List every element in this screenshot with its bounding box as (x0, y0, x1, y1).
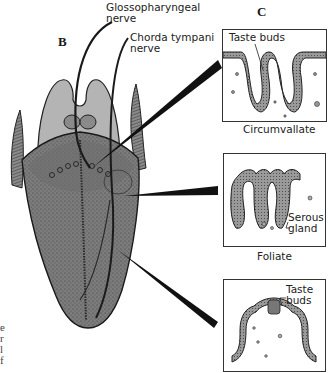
glossopharyngeal-label: Glossopharyngeal nerve (106, 2, 200, 24)
glossopharyngeal-line2: nerve (106, 13, 200, 24)
fungiform-panel: Taste buds (223, 279, 326, 372)
serous-gland-label: Serous gland (288, 212, 324, 234)
circumvallate-taste-buds-label: Taste buds (229, 32, 285, 43)
foliate-caption: Foliate (257, 251, 292, 262)
circumvallate-caption: Circumvallate (243, 124, 316, 135)
fungiform-taste-buds-label: Taste buds (286, 284, 313, 306)
chorda-tympani-line2: nerve (130, 43, 214, 54)
panel-b-label: B (58, 34, 67, 50)
panel-c-label: C (257, 4, 266, 20)
foliate-panel: Serous gland (223, 153, 326, 247)
fungiform-taste-buds-line2: buds (286, 295, 313, 306)
pointer-fungiform (118, 250, 218, 328)
serous-gland-line2: gland (288, 223, 324, 234)
chorda-tympani-label: Chorda tympani nerve (130, 32, 214, 54)
edge-fragment: f (0, 355, 5, 366)
left-edge-fragments: e r l f (0, 322, 5, 366)
circumvallate-panel: Taste buds (222, 29, 327, 122)
